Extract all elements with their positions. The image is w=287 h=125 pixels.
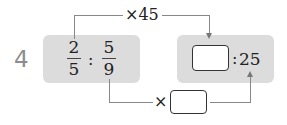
bottom-connector-right-vertical: [250, 76, 251, 102]
fraction-first: 2 5: [66, 39, 82, 78]
answer-blank-first-term[interactable]: [192, 45, 229, 71]
arrow-down-icon: [206, 33, 212, 39]
problem-number: 4: [14, 48, 29, 71]
top-connector-left-horizontal: [74, 15, 123, 16]
top-connector-left-vertical: [74, 15, 75, 39]
fraction-first-denominator: 5: [69, 61, 80, 78]
fraction-second-denominator: 9: [104, 61, 115, 78]
top-connector-right-vertical: [209, 15, 210, 33]
top-operation-label: ×45: [125, 7, 159, 23]
bottom-connector-right-horizontal: [210, 102, 251, 103]
fraction-second-numerator: 5: [104, 39, 115, 56]
left-ratio-colon: :: [88, 50, 93, 69]
bottom-connector-left-horizontal: [109, 102, 153, 103]
answer-blank-multiplier[interactable]: [170, 90, 207, 114]
fraction-first-numerator: 2: [69, 39, 80, 56]
fraction-second: 5 9: [101, 39, 117, 78]
right-ratio-colon: :: [232, 51, 237, 67]
bottom-operation-symbol: ×: [154, 94, 167, 110]
arrow-up-icon: [247, 71, 253, 77]
bottom-connector-left-vertical: [109, 79, 110, 102]
right-ratio-second-term: 25: [239, 51, 261, 68]
top-connector-right-horizontal: [162, 15, 210, 16]
